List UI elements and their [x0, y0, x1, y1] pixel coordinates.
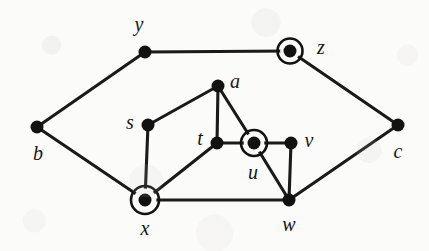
graph-node-w[interactable]: [283, 194, 296, 207]
node-label-w: w: [282, 214, 295, 234]
node-label-t: t: [197, 128, 203, 148]
graph-node-v[interactable]: [285, 137, 298, 150]
node-label-a: a: [230, 71, 240, 91]
graph-drawing: [0, 0, 429, 251]
node-label-y: y: [135, 14, 144, 34]
graph-node-y[interactable]: [139, 46, 152, 59]
graph-node-u[interactable]: [248, 137, 261, 150]
graph-edge-a-t: [217, 86, 218, 143]
graph-node-x[interactable]: [139, 194, 152, 207]
graph-edge-z-c: [290, 51, 398, 125]
node-label-x: x: [141, 218, 150, 238]
graph-edge-b-x: [37, 127, 145, 200]
figure-canvas: yzbcastuvxw: [0, 0, 429, 251]
graph-node-s[interactable]: [142, 119, 155, 132]
node-label-s: s: [126, 112, 134, 132]
graph-node-a[interactable]: [212, 80, 225, 93]
node-label-c: c: [394, 141, 403, 161]
graph-node-c[interactable]: [392, 119, 405, 132]
graph-edge-v-w: [289, 143, 291, 200]
node-label-u: u: [248, 162, 258, 182]
graph-edge-s-a: [148, 86, 218, 125]
node-label-v: v: [305, 130, 314, 150]
edges-group: [37, 51, 398, 200]
graph-edge-y-z: [145, 51, 290, 52]
node-label-z: z: [317, 37, 325, 57]
node-label-b: b: [33, 143, 43, 163]
graph-node-t[interactable]: [211, 137, 224, 150]
graph-node-z[interactable]: [284, 45, 297, 58]
graph-node-b[interactable]: [31, 121, 44, 134]
